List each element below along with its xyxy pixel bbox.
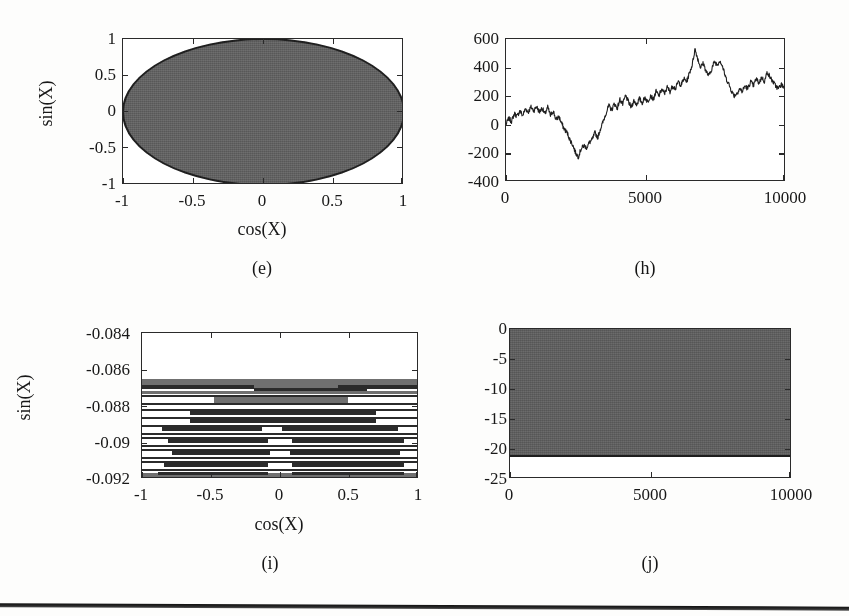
- panel-h-xtick-5000: 5000: [610, 189, 680, 206]
- panel-e-xtick-0: 0: [242, 192, 282, 209]
- panel-h-tick-left-4: [506, 153, 511, 154]
- panel-e-tick-top-3: [333, 39, 334, 44]
- panel-j-tick-bottom-5000: [651, 472, 652, 477]
- panel-e-plot-inner: [123, 39, 402, 183]
- panel-i-stripe-h2: [158, 472, 268, 475]
- panel-e-caption: (e): [252, 258, 272, 279]
- panel-e-yaxis-title-text: sin(X): [36, 67, 57, 127]
- panel-h-ytick-200: 200: [445, 87, 499, 104]
- panel-i-tick-right-2: [412, 406, 417, 407]
- panel-e-yaxis-title: sin(X): [16, 86, 76, 107]
- panel-i-stripe-f3: [290, 451, 400, 455]
- panel-e-ytick-m1: -1: [74, 175, 116, 192]
- panel-e-xtick-m05: -0.5: [164, 192, 220, 209]
- panel-i-stripe-f2: [172, 451, 270, 455]
- panel-j-ytick-m20: -20: [447, 440, 507, 457]
- panel-h-tick-top-5000: [646, 39, 647, 44]
- panel-i-stripe-e2: [168, 439, 268, 443]
- panel-h-tick-right-3: [779, 125, 784, 126]
- panel-i-tick-left-2: [142, 406, 147, 407]
- panel-i-tick-bottom-1: [211, 472, 212, 477]
- panel-i-xtick-m1: -1: [121, 486, 161, 503]
- panel-i-stripe-d3: [282, 427, 398, 431]
- panel-h-tick-right-1: [779, 68, 784, 69]
- panel-e-ytick-0: 0: [80, 102, 116, 119]
- panel-e-tick-bottom-2: [263, 178, 264, 183]
- panel-i-tick-top-1: [211, 333, 212, 338]
- panel-h-tick-right-2: [779, 96, 784, 97]
- panel-i-tick-left-3: [142, 443, 147, 444]
- panel-e-tick-top-1: [193, 39, 194, 44]
- panel-j-tick-left-4: [510, 449, 515, 450]
- panel-h-tick-left-3: [506, 125, 511, 126]
- panel-h-xtick-10000: 10000: [740, 189, 830, 206]
- panel-e-tick-bottom-1: [193, 178, 194, 183]
- panel-h-ytick-m400: -400: [437, 173, 499, 190]
- panel-h-ytick-m200: -200: [437, 144, 499, 161]
- panel-j-tick-left-2: [510, 389, 515, 390]
- panel-i-tick-right-1: [412, 370, 417, 371]
- panel-i-xaxis-title: cos(X): [255, 514, 304, 535]
- panel-i-ytick-m0084: -0.084: [38, 325, 130, 342]
- panel-i-stripe-d2: [162, 427, 262, 431]
- panel-h-tick-bottom-5000: [646, 175, 647, 180]
- panel-e-tick-right-1: [397, 75, 402, 76]
- panel-i-stripe-a1: [142, 385, 254, 389]
- panel-e-tick-bottom-0: [123, 178, 124, 183]
- panel-h-plot-area: [505, 38, 785, 181]
- panel-i-xtick-0: 0: [259, 486, 299, 503]
- panel-e-tick-bottom-3: [333, 178, 334, 183]
- panel-i-stripe-e3: [292, 439, 404, 443]
- panel-j-xtick-5000: 5000: [615, 486, 685, 503]
- panel-h-tick-bottom-10000: [783, 175, 784, 180]
- panel-i-stripe-c2: [190, 411, 376, 415]
- panel-i-plot-area: [141, 332, 418, 478]
- panel-i-stripe-d4: [142, 433, 418, 435]
- panel-h-caption: (h): [635, 258, 656, 279]
- panel-j-ytick-0: 0: [461, 320, 507, 337]
- panel-j-plot-area: [509, 328, 791, 478]
- panel-i-stripe-g4: [142, 469, 418, 471]
- panel-i-tick-bottom-4: [416, 472, 417, 477]
- panel-j-signal-texture: [510, 329, 791, 455]
- panel-i-yaxis-title: sin(X): [0, 380, 54, 401]
- panel-i-stripe-b3: [142, 403, 418, 405]
- panel-i-ytick-m0086: -0.086: [38, 361, 130, 378]
- panel-j-tick-left-1: [510, 359, 515, 360]
- panel-e-xaxis-title: cos(X): [238, 219, 287, 240]
- panel-e-tick-left-1: [123, 75, 128, 76]
- panel-i-xtick-05: 0.5: [323, 486, 373, 503]
- panel-h-random-walk-line: [506, 49, 784, 159]
- panel-e-ytick-05: 0.5: [80, 66, 116, 83]
- panel-i-stripe-a3: [338, 385, 418, 389]
- panel-i-tick-bottom-0: [142, 472, 143, 477]
- panel-j-xtick-10000: 10000: [746, 486, 836, 503]
- panel-e-ytick-1: 1: [80, 30, 116, 47]
- panel-j-tick-left-3: [510, 419, 515, 420]
- panel-e-tick-bottom-4: [401, 178, 402, 183]
- panel-j-ytick-m10: -10: [447, 380, 507, 397]
- panel-j: 0 -5 -10 -15 -20 -25 0 5000 10: [425, 300, 849, 590]
- panel-j-ytick-m25: -25: [447, 470, 507, 487]
- panel-j-tick-right-2: [785, 389, 790, 390]
- panel-j-ytick-m5: -5: [453, 350, 507, 367]
- panel-h-ytick-400: 400: [445, 58, 499, 75]
- panel-i-yaxis-title-text: sin(X): [14, 361, 35, 421]
- panel-e-tick-top-2: [263, 39, 264, 44]
- panel-e-tick-right-3: [397, 147, 402, 148]
- panel-i-xtick-m05: -0.5: [182, 486, 238, 503]
- panel-h-series-svg: [506, 39, 784, 181]
- panel-i-stripe-g2: [164, 463, 268, 467]
- panel-i-ytick-m009: -0.09: [38, 434, 130, 451]
- panel-h-ytick-600: 600: [445, 30, 499, 47]
- panel-i-caption: (i): [262, 553, 279, 574]
- panel-h-tick-left-1: [506, 68, 511, 69]
- panel-j-tick-right-1: [785, 359, 790, 360]
- panel-e-ytick-m05: -0.5: [74, 139, 116, 156]
- panel-i-ytick-m0092: -0.092: [38, 470, 130, 487]
- panel-i-stripe-g3: [292, 463, 404, 467]
- panel-i-tick-bottom-2: [280, 472, 281, 477]
- panel-h-ytick-0: 0: [445, 116, 499, 133]
- panel-i: -0.084 -0.086 -0.088 -0.09 -0.092: [0, 300, 425, 590]
- panel-j-ytick-m15: -15: [447, 410, 507, 427]
